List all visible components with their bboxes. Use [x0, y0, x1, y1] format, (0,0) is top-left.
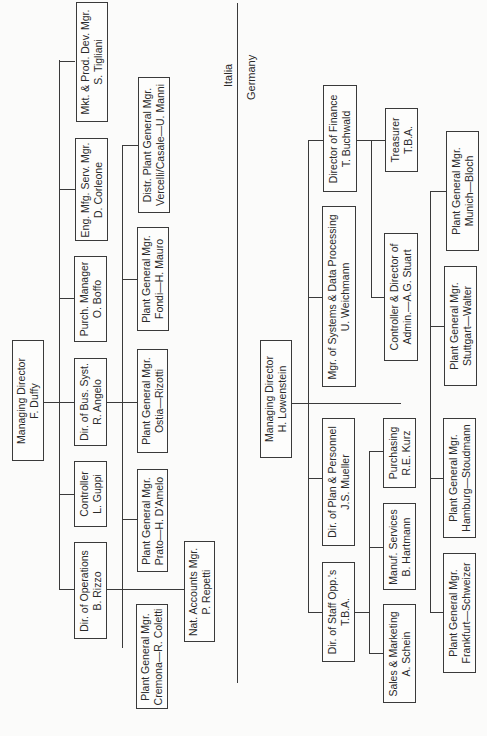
org-box-controller: ControllerL. Guppi [74, 461, 107, 527]
org-box-dir-plan-personnel: Dir. of Plan & PersonnelJ.S. Mueller [322, 418, 355, 546]
connector [308, 140, 324, 141]
org-box-director-finance: Director of FinanceT. Buchwald [323, 85, 357, 192]
org-box-purchasing: PurchasingR.E. Kurz [383, 418, 416, 488]
connector [430, 191, 431, 613]
org-box-plant-prato: Plant General Mgr.Prato—H. D'Amelo [137, 469, 168, 572]
org-box-dir-staff-opps: Dir. of Staff Opp.'sT.B.A. [322, 562, 355, 662]
region-divider [237, 163, 238, 683]
connector [59, 298, 75, 299]
org-box-mgr-systems-dp: Mgr. of Systems & Data ProcessingU. Weic… [322, 206, 356, 387]
org-box-plant-stuttgart: Plant General Mgr.Stuttgart—Walter [444, 266, 477, 386]
connector [59, 60, 60, 590]
connector [354, 612, 370, 613]
org-box-nat-accounts: Nat. Accounts Mgr.P. Repetti [184, 541, 215, 642]
org-box-plant-hamburg: Plant General Mgr.Hamburg—Stoudmann [443, 418, 476, 538]
org-box-dir-bus-syst: Dir. of Bus. Syst.R. Angelo [74, 358, 107, 446]
org-box-germany-managing-director: Managing DirectorH. Lowenstein [260, 340, 292, 458]
connector [122, 279, 138, 280]
org-box-plant-ostia: Plant General Mgr.Ostia—Rizotti [137, 349, 168, 453]
org-box-manuf-services: Manuf. ServicesB. Hartmann [383, 503, 416, 590]
connector [369, 451, 370, 654]
connector [122, 145, 123, 648]
connector [356, 140, 372, 141]
connector [107, 589, 185, 590]
org-box-purch-manager: Purch. ManagerO. Boffo [74, 256, 107, 342]
connector [122, 145, 138, 146]
connector [59, 61, 75, 62]
region-label-germany: Germany [245, 55, 257, 100]
org-box-controller-admin: Controller & Director ofAdmin.—A.G. Stua… [384, 233, 418, 361]
connector [59, 494, 75, 495]
org-box-treasurer: TreasurerT.B.A. [385, 108, 418, 172]
org-box-plant-fondi: Plant General Mgr.Fondi—H. Mauro [137, 227, 169, 331]
connector [59, 589, 75, 590]
org-box-plant-cremona: Plant General Mgr.Cremona—R. Coletti [136, 604, 168, 709]
region-divider [237, 3, 238, 163]
region-label-italia: Italia [222, 64, 234, 87]
org-box-plant-munich: Plant General Mgr.Munich—Bloch [446, 131, 479, 251]
connector [122, 519, 138, 520]
org-box-eng-mfg-serv: Eng. Mfg. Serv. Mgr.D. Corleone [75, 138, 108, 241]
connector [371, 140, 372, 298]
org-box-plant-frankfurt: Plant General Mgr.Frankfurt—Schweizer [443, 553, 476, 673]
org-box-italia-managing-director: Managing DirectorF. Duffy [12, 340, 44, 461]
org-box-dir-operations: Dir. of OperationsB. Rizzo [74, 542, 107, 639]
org-box-distr-plant: Distr. Plant General Mgr.Vercelli/Casale… [138, 77, 170, 213]
org-box-mkt-prod-dev: Mkt. & Prod. Dev. Mgr.S. Tigliani [76, 2, 108, 122]
connector [430, 191, 446, 192]
org-box-sales-marketing: Sales & MarketingA. Schein [383, 604, 416, 703]
connector [59, 189, 75, 190]
connector [107, 402, 141, 403]
connector [308, 140, 309, 613]
